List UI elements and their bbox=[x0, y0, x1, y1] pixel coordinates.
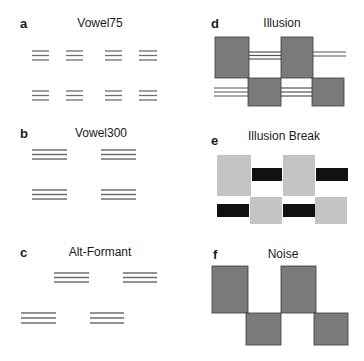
tone-group-icon bbox=[105, 51, 122, 60]
noise-square-icon bbox=[212, 266, 248, 313]
tone-group-icon bbox=[123, 273, 157, 282]
tone-group-icon bbox=[32, 150, 67, 159]
tone-group-icon bbox=[66, 51, 83, 60]
tone-group-icon bbox=[32, 51, 49, 60]
tone-group-icon bbox=[32, 91, 49, 100]
noise-square-icon bbox=[281, 266, 316, 313]
panel-c-stimulus bbox=[21, 273, 157, 323]
panel-e-stimulus bbox=[217, 155, 348, 224]
panel-d-stimulus bbox=[214, 37, 346, 106]
tone-group-icon bbox=[105, 91, 122, 100]
panel-f-stimulus bbox=[212, 266, 348, 345]
tone-group-icon bbox=[101, 150, 136, 159]
panel-a-stimulus bbox=[32, 51, 157, 100]
tone-group-icon bbox=[139, 91, 157, 100]
tone-group-icon bbox=[90, 313, 124, 323]
noise-square-icon bbox=[314, 313, 348, 345]
tone-group-icon bbox=[139, 51, 157, 60]
tone-group-icon bbox=[66, 91, 83, 100]
tone-group-icon bbox=[21, 313, 56, 323]
figure-canvas bbox=[0, 0, 364, 361]
tone-group-icon bbox=[54, 273, 89, 282]
tone-group-icon bbox=[32, 190, 67, 199]
noise-square-icon bbox=[246, 313, 281, 345]
panel-b-stimulus bbox=[32, 150, 136, 199]
tone-group-icon bbox=[101, 190, 136, 199]
